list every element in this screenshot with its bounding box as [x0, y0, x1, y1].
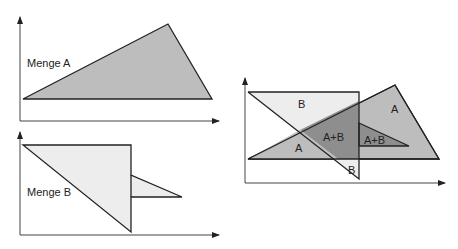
label-overlap-main: A+B — [323, 131, 344, 143]
panel-set-b: Menge B — [20, 132, 219, 235]
set-overlap-diagram: Menge A Menge B B A A A+B A+B B — [0, 0, 458, 249]
panel-union: B A A A+B A+B B — [245, 78, 445, 183]
diagram-canvas: Menge A Menge B B A A A+B A+B B — [0, 0, 458, 249]
set-b-label: Menge B — [27, 186, 71, 198]
label-b-top: B — [298, 98, 305, 110]
label-overlap-small: A+B — [364, 134, 385, 146]
set-a-label: Menge A — [27, 57, 71, 69]
label-b-bottom: B — [348, 164, 355, 176]
panel-set-a: Menge A — [20, 17, 219, 121]
label-a-left: A — [295, 142, 303, 154]
label-a-right: A — [391, 103, 399, 115]
